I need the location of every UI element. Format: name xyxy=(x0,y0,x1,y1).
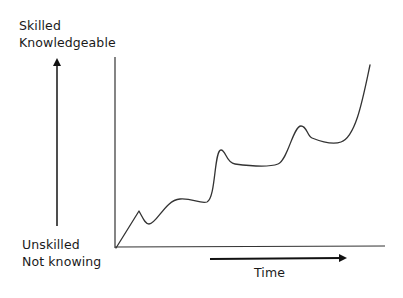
x-axis xyxy=(115,246,385,247)
learning-curve-diagram xyxy=(0,0,403,298)
learning-curve xyxy=(116,65,370,248)
time-arrow-icon xyxy=(210,258,343,259)
